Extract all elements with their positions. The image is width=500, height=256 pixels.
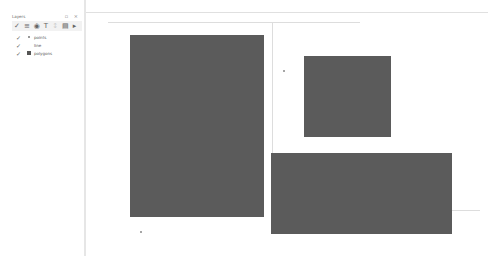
layer-name: polygons [34,51,52,56]
line-feature [272,22,273,154]
add-group-icon[interactable]: ≡ [24,22,30,30]
layer-name: points [34,35,46,40]
canvas-top-border [86,12,488,13]
remove-layer-icon[interactable]: ▸ [73,22,77,30]
layer-tree: ✓ points ✓ line ✓ polygons [16,33,52,57]
open-layer-styling-icon[interactable]: ✓ [14,22,20,30]
line-feature [108,22,360,23]
collapse-icon[interactable]: ▤ [62,22,69,30]
filter-icon[interactable]: T [44,22,48,30]
polygon-symbol-icon [26,51,31,55]
point-feature [140,231,142,233]
point-feature [283,70,285,72]
polygon-feature [130,35,264,217]
polygon-feature [271,153,452,234]
map-canvas[interactable] [86,0,500,256]
line-feature [452,210,480,211]
polygon-feature [304,56,391,137]
layers-panel-title: Layers [12,14,25,19]
panel-float-close-controls[interactable]: ▫ × [65,13,80,19]
layer-item-line[interactable]: ✓ line [16,41,52,49]
visibility-icon[interactable]: ◉ [34,22,40,30]
layer-item-points[interactable]: ✓ points [16,33,52,41]
expand-icon[interactable]: ↕ [52,22,58,30]
layers-toolbar: ✓ ≡ ◉ T ↕ ▤ ▸ [12,21,82,31]
point-symbol-icon [26,36,31,38]
checkbox-icon[interactable]: ✓ [16,34,23,41]
checkbox-icon[interactable]: ✓ [16,50,23,57]
layer-item-polygons[interactable]: ✓ polygons [16,49,52,57]
layer-name: line [34,43,41,48]
checkbox-icon[interactable]: ✓ [16,42,23,49]
layers-panel: Layers ▫ × ✓ ≡ ◉ T ↕ ▤ ▸ ✓ points ✓ line… [0,0,86,256]
layers-panel-header: Layers ▫ × [12,13,82,21]
